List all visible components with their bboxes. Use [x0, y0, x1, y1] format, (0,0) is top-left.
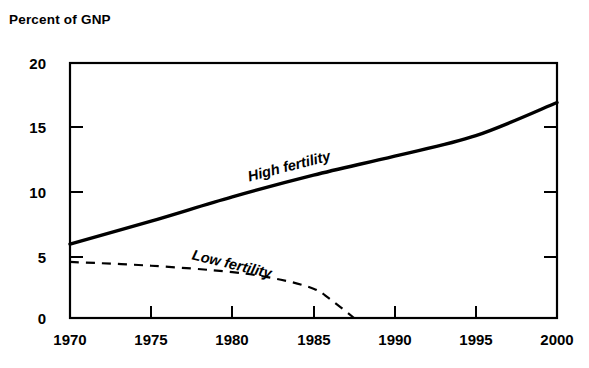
x-tick-marks: [151, 306, 476, 318]
series-line-high-fertility: [70, 103, 557, 245]
plot-area: [0, 0, 589, 368]
plot-frame: [70, 63, 557, 318]
y-tick-marks-right: [544, 127, 557, 257]
series-line-low-fertility: [70, 262, 354, 318]
y-tick-marks: [70, 127, 83, 257]
chart-figure: Percent of GNP 20 15 10 5 0 1970 1975 19…: [0, 0, 589, 368]
